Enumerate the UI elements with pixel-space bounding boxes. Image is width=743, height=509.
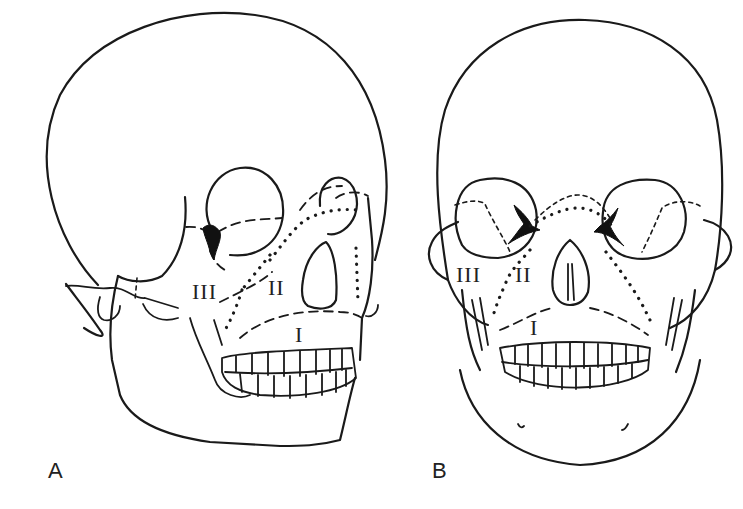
panel-label-a: A (48, 458, 63, 484)
panel-label-b: B (432, 458, 447, 484)
region-label-b-III: III (456, 262, 481, 288)
skull-illustrations (0, 0, 743, 509)
region-label-a-II: II (268, 275, 285, 301)
region-label-a-I: I (295, 322, 303, 348)
teeth-a (222, 348, 356, 398)
region-label-b-II: II (515, 262, 532, 288)
teeth-b (500, 342, 650, 389)
region-label-a-III: III (192, 279, 217, 305)
skull-b (429, 20, 731, 465)
skull-a (47, 13, 387, 446)
figure-canvas: III II I III II I A B (0, 0, 743, 509)
region-label-b-I: I (530, 315, 538, 341)
